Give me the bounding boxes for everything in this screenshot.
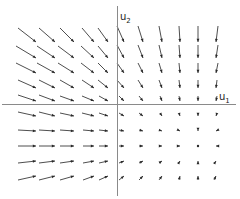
- vector-arrow: [98, 46, 108, 58]
- vector-arrow: [216, 145, 219, 148]
- vector-arrow: [139, 129, 143, 132]
- vector-arrow: [60, 129, 74, 132]
- vector-arrow: [98, 63, 108, 73]
- vector-arrow: [119, 96, 124, 101]
- vector-arrow: [159, 63, 162, 73]
- vector-arrow: [159, 113, 162, 116]
- vector-arrow: [18, 112, 36, 117]
- vector-arrow: [216, 128, 219, 131]
- vector-arrow: [139, 96, 143, 101]
- vector-arrow: [39, 80, 55, 88]
- vector-arrow: [39, 112, 55, 117]
- vector-arrow: [37, 46, 55, 58]
- vector-arrow: [213, 161, 216, 164]
- vector-arrow: [216, 113, 219, 116]
- vector-arrow: [159, 145, 162, 148]
- vector-arrow: [197, 145, 199, 147]
- vector-arrow: [159, 176, 162, 180]
- vector-arrow: [99, 129, 108, 132]
- vector-arrow: [18, 80, 36, 88]
- vector-arrow: [83, 176, 94, 180]
- vector-arrow: [99, 160, 108, 163]
- vector-arrow: [197, 128, 200, 131]
- vector-arrow: [83, 160, 94, 163]
- vector-arrow: [18, 129, 36, 132]
- vector-arrow: [139, 113, 143, 116]
- vector-arrow: [99, 96, 108, 101]
- vector-arrow: [177, 161, 180, 164]
- vector-arrow: [82, 96, 94, 101]
- vector-arrow: [60, 176, 74, 180]
- vector-arrow: [215, 63, 218, 73]
- vector-arrow: [18, 145, 36, 148]
- vector-arrow: [117, 80, 124, 88]
- vector-arrow: [37, 63, 55, 73]
- vector-arrow: [119, 145, 124, 148]
- vector-arrow: [178, 96, 181, 101]
- vector-arrow: [60, 28, 74, 42]
- vector-arrow: [99, 145, 108, 148]
- vector-arrow: [81, 63, 94, 73]
- vector-arrow: [119, 176, 124, 180]
- vector-arrow: [16, 63, 36, 73]
- vector-arrow: [83, 129, 94, 132]
- vector-arrow: [18, 28, 36, 42]
- vector-arrow: [82, 80, 94, 88]
- vector-arrow: [138, 45, 143, 58]
- vector-arrow: [197, 96, 200, 101]
- vector-arrow: [213, 176, 216, 180]
- vector-arrow: [215, 96, 218, 101]
- vector-arrow: [60, 113, 74, 117]
- vector-arrow: [82, 28, 94, 42]
- vector-arrow: [178, 26, 181, 42]
- vector-arrow: [39, 95, 55, 101]
- vector-arrow: [139, 161, 143, 164]
- vector-arrow: [215, 26, 218, 42]
- vector-arrow: [197, 63, 200, 73]
- vector-arrow: [159, 129, 162, 132]
- vector-arrow: [197, 176, 200, 180]
- vector-arrow: [58, 63, 74, 73]
- vector-arrow: [159, 80, 162, 88]
- vector-arrow: [60, 145, 74, 148]
- vector-arrow: [39, 175, 55, 180]
- vector-arrow: [117, 45, 124, 58]
- vector-arrow: [119, 129, 124, 132]
- vector-arrow: [119, 113, 124, 116]
- vector-arrow: [117, 63, 124, 73]
- vector-arrow: [138, 26, 143, 42]
- vector-arrow: [215, 80, 218, 88]
- vector-arrow: [178, 176, 181, 180]
- vector-arrow: [215, 45, 218, 58]
- u1-axis-label: u1: [219, 92, 230, 105]
- vector-arrow: [119, 161, 124, 164]
- vector-arrow: [39, 145, 55, 148]
- vector-field-diagram: [0, 0, 240, 199]
- vector-arrow: [177, 145, 180, 148]
- vector-arrow: [178, 80, 181, 88]
- vector-arrow: [58, 46, 74, 58]
- vector-arrow: [197, 26, 200, 42]
- vector-arrow: [98, 80, 108, 88]
- vector-arrow: [39, 129, 55, 132]
- u2-axis-label: u2: [120, 12, 131, 25]
- vector-arrow: [99, 113, 108, 116]
- vector-arrow: [138, 80, 143, 88]
- vector-arrow: [159, 45, 163, 58]
- vector-arrow: [197, 45, 200, 58]
- vector-arrow: [18, 175, 36, 180]
- vector-arrow: [159, 26, 163, 42]
- vector-arrow: [81, 46, 94, 58]
- vector-arrow: [138, 63, 143, 73]
- vector-arrow: [16, 46, 36, 58]
- vector-arrow: [160, 96, 163, 101]
- vector-arrow: [98, 28, 108, 42]
- vector-arrow: [197, 80, 200, 88]
- vector-arrow: [197, 161, 200, 164]
- vector-arrow: [178, 63, 181, 73]
- vector-arrow: [82, 113, 94, 117]
- vector-arrow: [177, 128, 180, 131]
- vector-arrow: [139, 176, 143, 180]
- vector-arrow: [60, 80, 74, 88]
- vector-arrow: [159, 161, 162, 164]
